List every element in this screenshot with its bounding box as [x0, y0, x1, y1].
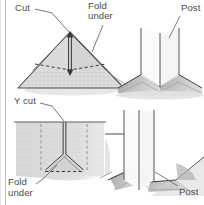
label-fold-under-bottom-line2: under	[8, 188, 33, 199]
leader-y-cut	[40, 103, 64, 121]
figure-container: Cut Fold under Post Y cut Fold under Pos…	[0, 0, 204, 205]
label-post-bottom: Post	[179, 187, 198, 198]
leader-fold-under-top	[92, 25, 103, 52]
label-fold-under-top-line2: under	[88, 11, 113, 22]
label-cut: Cut	[15, 3, 30, 14]
post-bottom-face-left	[124, 110, 140, 190]
label-post-top: Post	[181, 3, 200, 14]
panel-bottom-right	[100, 110, 204, 196]
label-fold-under-bottom-line1: Fold	[8, 177, 27, 188]
post-bottom	[124, 110, 154, 190]
post-top	[141, 28, 179, 87]
leader-cut	[35, 9, 69, 32]
fabric-far-left	[105, 138, 110, 176]
panel-top-left	[18, 9, 124, 96]
panel-top-right	[110, 16, 204, 100]
panel-frame	[1, 0, 6, 205]
panel-bottom-left	[14, 103, 106, 184]
post-bottom-face-right	[140, 110, 154, 190]
label-y-cut: Y cut	[14, 96, 36, 107]
post-ground-shadow	[116, 91, 204, 100]
